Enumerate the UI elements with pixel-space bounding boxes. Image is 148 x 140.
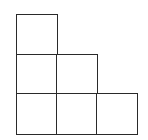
grid-cell-r1-c0 (16, 54, 58, 96)
grid-cell-r2-c2 (96, 93, 138, 135)
grid-cell-r2-c0 (16, 93, 58, 135)
grid-cell-r1-c1 (56, 54, 98, 96)
grid-cell-r0-c0 (16, 14, 58, 56)
staircase-diagram (0, 0, 148, 140)
grid-cell-r2-c1 (56, 93, 98, 135)
